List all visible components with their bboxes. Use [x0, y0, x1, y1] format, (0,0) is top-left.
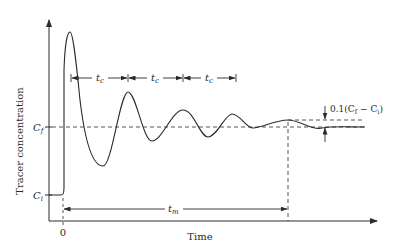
tracer-diagram: Tracer concentration Time 0 Cf Ci tc tc …: [0, 0, 395, 251]
final-level-label: Cf: [33, 122, 45, 135]
mixing-time-label: tm: [168, 203, 179, 216]
period-label-3: tc: [205, 72, 213, 85]
tolerance-label: 0.1(Cf − Ci): [330, 104, 383, 116]
initial-level-label: Ci: [33, 190, 43, 203]
period-label-2: tc: [151, 72, 159, 85]
response-curve: [49, 32, 365, 195]
x-axis-label: Time: [187, 231, 212, 242]
x-origin-label: 0: [60, 227, 66, 238]
period-label-1: tc: [96, 72, 104, 85]
y-axis-label: Tracer concentration: [14, 87, 25, 195]
